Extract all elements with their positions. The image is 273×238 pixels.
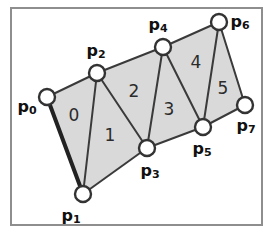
figure-canvas: 012345 p0p1p2p3p4p5p6p7: [0, 0, 273, 238]
triangle-index-label-0: 0: [69, 105, 80, 125]
vertex-marker-p7: [237, 97, 253, 113]
triangle-index-label-5: 5: [218, 78, 229, 98]
vertex-marker-p6: [211, 14, 227, 30]
triangle-index-label-1: 1: [105, 125, 116, 145]
triangle-index-label-4: 4: [191, 52, 202, 72]
vertex-marker-p2: [89, 65, 105, 81]
vertex-marker-p3: [139, 140, 155, 156]
vertex-marker-p5: [195, 119, 211, 135]
triangle-index-label-3: 3: [164, 99, 175, 119]
triangle-strip-diagram: 012345 p0p1p2p3p4p5p6p7: [0, 0, 273, 238]
vertex-marker-p0: [39, 89, 55, 105]
vertex-marker-p1: [75, 186, 91, 202]
vertex-marker-p4: [155, 39, 171, 55]
triangle-index-label-2: 2: [129, 81, 140, 101]
